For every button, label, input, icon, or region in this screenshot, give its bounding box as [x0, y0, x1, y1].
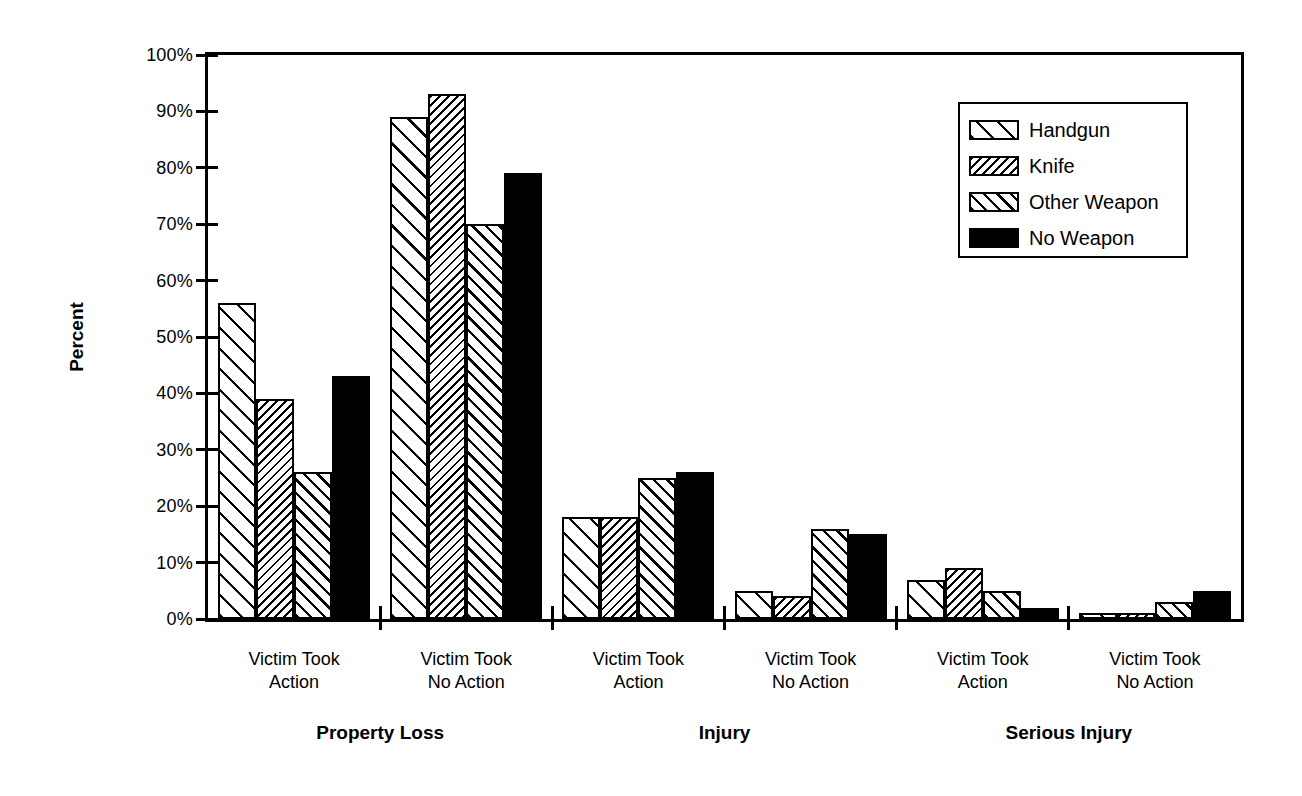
category-label-line1: Victim Took [209, 648, 379, 671]
x-axis-tick [723, 606, 726, 630]
y-tick-label: 30% [0, 439, 193, 461]
y-axis-tick [196, 336, 218, 339]
bar-other-weapon [1155, 602, 1193, 619]
y-axis-tick [196, 279, 218, 282]
legend-label: Handgun [1029, 120, 1110, 140]
category-label-line1: Victim Took [553, 648, 723, 671]
y-axis-tick [196, 618, 218, 621]
legend-item: No Weapon [960, 220, 1186, 256]
category-label: Victim TookNo Action [381, 648, 551, 694]
category-label-line2: Action [209, 671, 379, 694]
category-label: Victim TookAction [553, 648, 723, 694]
y-axis-tick [196, 561, 218, 564]
y-axis-tick [196, 448, 218, 451]
x-axis-tick [895, 606, 898, 630]
y-tick-label: 100% [0, 44, 193, 66]
y-tick-label: 60% [0, 270, 193, 292]
bar-other-weapon [466, 224, 504, 619]
y-tick-label: 80% [0, 157, 193, 179]
bar-other-weapon [638, 478, 676, 619]
y-axis-tick [196, 392, 218, 395]
category-label-line1: Victim Took [381, 648, 551, 671]
bar-no-weapon [849, 534, 887, 619]
y-tick-label: 50% [0, 326, 193, 348]
legend-item: Handgun [960, 112, 1186, 148]
section-label: Serious Injury [949, 722, 1189, 744]
x-axis-tick [1067, 606, 1070, 630]
bar-no-weapon [1193, 591, 1231, 619]
section-label: Property Loss [260, 722, 500, 744]
bar-knife [600, 517, 638, 619]
bar-handgun [390, 117, 428, 619]
category-label-line2: Action [553, 671, 723, 694]
category-label-line2: No Action [1070, 671, 1240, 694]
category-label: Victim TookAction [898, 648, 1068, 694]
legend-item: Knife [960, 148, 1186, 184]
category-label-line1: Victim Took [1070, 648, 1240, 671]
category-label: Victim TookNo Action [726, 648, 896, 694]
bar-knife [256, 399, 294, 619]
y-axis-tick [196, 166, 218, 169]
bar-handgun [1079, 613, 1117, 619]
section-label: Injury [605, 722, 845, 744]
bar-handgun [907, 580, 945, 619]
category-label-line2: Action [898, 671, 1068, 694]
legend-label: No Weapon [1029, 228, 1134, 248]
category-label-line1: Victim Took [898, 648, 1068, 671]
legend-label: Other Weapon [1029, 192, 1159, 212]
bar-no-weapon [332, 376, 370, 619]
legend-swatch-slash-fine-icon [969, 156, 1019, 176]
legend: HandgunKnifeOther WeaponNo Weapon [958, 102, 1188, 258]
bar-handgun [735, 591, 773, 619]
y-tick-label: 20% [0, 495, 193, 517]
category-label-line2: No Action [726, 671, 896, 694]
category-label: Victim TookNo Action [1070, 648, 1240, 694]
bar-no-weapon [1021, 608, 1059, 619]
y-tick-label: 40% [0, 382, 193, 404]
y-axis-tick [196, 223, 218, 226]
y-axis-tick [196, 54, 218, 57]
bar-handgun [218, 303, 256, 619]
bar-other-weapon [811, 529, 849, 619]
bar-knife [428, 94, 466, 619]
y-axis-tick [196, 505, 218, 508]
bar-handgun [562, 517, 600, 619]
legend-label: Knife [1029, 156, 1075, 176]
bar-knife [945, 568, 983, 619]
x-axis-tick [551, 606, 554, 630]
y-axis-tick [196, 110, 218, 113]
y-tick-label: 90% [0, 100, 193, 122]
bar-knife [1117, 613, 1155, 619]
legend-swatch-backslash-medium-icon [969, 192, 1019, 212]
x-axis-tick [379, 606, 382, 630]
legend-swatch-solid-icon [969, 228, 1019, 248]
bar-other-weapon [983, 591, 1021, 619]
bar-chart-figure: Percent 0%10%20%30%40%50%60%70%80%90%100… [0, 0, 1302, 796]
bar-other-weapon [294, 472, 332, 619]
legend-swatch-backslash-wide-icon [969, 120, 1019, 140]
bar-no-weapon [504, 173, 542, 619]
category-label-line1: Victim Took [726, 648, 896, 671]
bar-knife [773, 596, 811, 619]
legend-item: Other Weapon [960, 184, 1186, 220]
y-tick-label: 10% [0, 552, 193, 574]
y-tick-label: 70% [0, 213, 193, 235]
bar-no-weapon [676, 472, 714, 619]
category-label: Victim TookAction [209, 648, 379, 694]
y-tick-label: 0% [0, 608, 193, 630]
category-label-line2: No Action [381, 671, 551, 694]
